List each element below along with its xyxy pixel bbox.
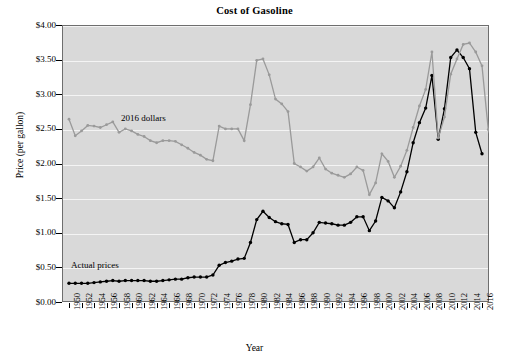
data-point [268,73,271,76]
data-point [149,139,152,142]
data-point [280,222,283,225]
data-point [174,277,177,280]
data-point [180,277,183,280]
data-point [105,280,108,283]
data-point [411,141,414,144]
data-point [186,276,189,279]
data-point [218,125,221,128]
data-point [468,42,471,45]
x-axis-tick-label: 1972 [210,293,219,310]
x-axis-tick-mark [219,303,220,308]
data-point [412,126,415,129]
x-axis-tick-label: 1984 [285,293,294,310]
series-label-actual-prices: Actual prices [71,260,119,270]
data-point [343,176,346,179]
data-point [80,282,83,285]
data-point [237,127,240,130]
x-axis-tick-label: 2014 [473,293,482,310]
data-point [424,88,427,91]
data-point [399,190,402,193]
y-axis-tick-mark [56,267,62,268]
data-point [406,149,409,152]
data-point [318,221,321,224]
data-point [212,159,215,162]
x-axis-tick-label: 2004 [410,293,419,310]
data-point [111,121,114,124]
y-axis-tick-label: $1.00 [12,228,56,237]
x-axis-tick-mark [469,303,470,308]
y-axis-tick-mark [56,129,62,130]
data-point [305,170,308,173]
x-axis-tick-mark [144,303,145,308]
x-axis-tick-mark [194,303,195,308]
data-point [99,280,102,283]
data-point [368,229,371,232]
data-point [380,196,383,199]
x-axis-tick-label: 1952 [85,293,94,310]
x-axis-tick-label: 1964 [160,293,169,310]
x-axis-tick-mark [244,303,245,308]
x-axis-tick-label: 2002 [398,293,407,310]
data-point [456,58,459,61]
data-point [324,168,327,171]
data-point [274,98,277,101]
x-axis-tick-label: 1988 [310,293,319,310]
x-axis-tick-mark [207,303,208,308]
data-point [211,273,214,276]
data-point [224,261,227,264]
y-axis-tick-mark [56,302,62,303]
data-point [443,116,446,119]
data-point [480,152,483,155]
x-axis-tick-mark [482,303,483,308]
data-point [361,215,364,218]
data-point [224,127,227,130]
y-axis-tick-mark [56,233,62,234]
x-axis-tick-mark [132,303,133,308]
data-point [474,131,477,134]
x-axis-tick-mark [444,303,445,308]
data-point [262,58,265,61]
x-axis-tick-label: 2000 [385,293,394,310]
x-axis-tick-mark [344,303,345,308]
data-point [230,127,233,130]
x-axis-tick-label: 1992 [335,293,344,310]
data-point [93,125,96,128]
series-line-actual-prices [69,50,482,283]
data-point [111,279,114,282]
data-point [330,172,333,175]
data-point [336,223,339,226]
data-point [462,56,465,59]
x-axis-tick-mark [107,303,108,308]
data-point [418,105,421,108]
data-point [249,241,252,244]
data-point [136,279,139,282]
x-axis-tick-label: 1950 [73,293,82,310]
y-axis-tick-mark [56,25,62,26]
data-point [205,275,208,278]
data-point [380,152,383,155]
data-point [136,133,139,136]
data-point [355,215,358,218]
data-point [387,160,390,163]
data-point [243,257,246,260]
data-point [324,221,327,224]
data-point [462,43,465,46]
data-point [249,103,252,106]
data-point [74,134,77,137]
data-point [142,279,145,282]
x-axis-tick-label: 1968 [185,293,194,310]
x-axis-tick-label: 1996 [360,293,369,310]
data-point [393,206,396,209]
data-point [305,238,308,241]
data-point [481,64,484,67]
x-axis-tick-label: 1978 [248,293,257,310]
x-axis-tick-label: 2010 [448,293,457,310]
x-axis-tick-label: 1960 [135,293,144,310]
x-axis-tick-mark [407,303,408,308]
x-axis-tick-label: 1990 [323,293,332,310]
data-point [487,128,489,131]
data-point [118,131,121,134]
x-axis-tick-label: 1982 [273,293,282,310]
data-point [299,238,302,241]
x-axis-tick-mark [332,303,333,308]
